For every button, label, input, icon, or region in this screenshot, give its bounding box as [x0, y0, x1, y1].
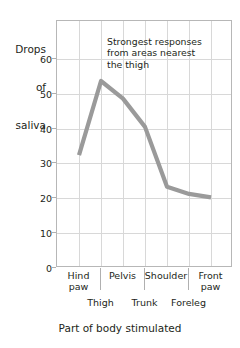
- x-tick-label-thigh: Thigh: [79, 297, 122, 308]
- x-tick-label-foreleg: Foreleg: [166, 297, 211, 308]
- y-tick-label-30: 30: [34, 158, 52, 169]
- x-tick-label-pelvis-line-1: Pelvis: [101, 270, 144, 281]
- y-tick-label-60: 60: [34, 54, 52, 65]
- annotation-line-2: from areas nearest: [107, 47, 207, 58]
- y-tick-mark-0: [52, 267, 56, 268]
- y-tick-label-50: 50: [34, 89, 52, 100]
- x-tick-label-shoulder-line-1: Shoulder: [144, 270, 188, 281]
- x-axis-title: Part of body stimulated: [0, 322, 240, 334]
- annotation-line-3: the thigh: [107, 59, 207, 70]
- x-tick-label-hind-paw-line-1: Hind: [57, 270, 100, 281]
- y-tick-label-40: 40: [34, 124, 52, 135]
- annotation-line-1: Strongest responses: [107, 36, 207, 47]
- x-tick-label-hind-paw: Hind paw: [57, 270, 100, 292]
- x-tick-label-front-paw-line-1: Front: [189, 270, 232, 281]
- x-tick-label-trunk: Trunk: [123, 297, 166, 308]
- y-tick-label-10: 10: [34, 228, 52, 239]
- x-tick-label-hind-paw-line-2: paw: [57, 281, 100, 292]
- y-tick-label-20: 20: [34, 193, 52, 204]
- chart-annotation: Strongest responses from areas nearest t…: [107, 36, 207, 70]
- x-tick-label-front-paw: Front paw: [189, 270, 232, 292]
- saliva-response-line-chart: Drops of saliva 0 10 20 30 40 50 60: [0, 0, 240, 348]
- x-tick-label-shoulder: Shoulder: [144, 270, 188, 281]
- series-polyline: [79, 81, 211, 197]
- y-axis-title: Drops of saliva: [2, 18, 46, 157]
- x-tick-label-front-paw-line-2: paw: [189, 281, 232, 292]
- y-tick-label-0: 0: [34, 263, 52, 274]
- x-tick-label-pelvis: Pelvis: [101, 270, 144, 281]
